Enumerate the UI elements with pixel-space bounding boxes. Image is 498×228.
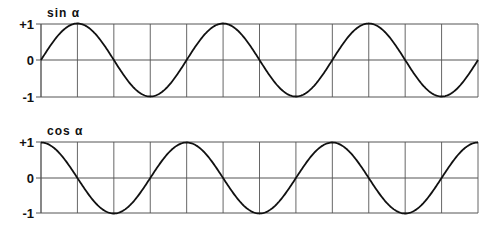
sin-title: sin α (47, 6, 80, 20)
cos-grid (36, 142, 478, 213)
sin-grid (36, 24, 478, 97)
sin-ytick-mid: 0 (27, 53, 34, 68)
cos-title: cos α (47, 124, 83, 138)
cos-chart: cos α +1 0 -1 (19, 124, 478, 221)
sin-cos-chart: sin α +1 0 -1 cos α +1 0 -1 (0, 0, 498, 228)
cos-ytick-bot: -1 (22, 206, 34, 221)
sin-chart: sin α +1 0 -1 (19, 6, 478, 105)
cos-ytick-mid: 0 (27, 171, 34, 186)
sin-ytick-bot: -1 (22, 90, 34, 105)
sin-ytick-top: +1 (19, 17, 34, 32)
cos-ytick-top: +1 (19, 135, 34, 150)
